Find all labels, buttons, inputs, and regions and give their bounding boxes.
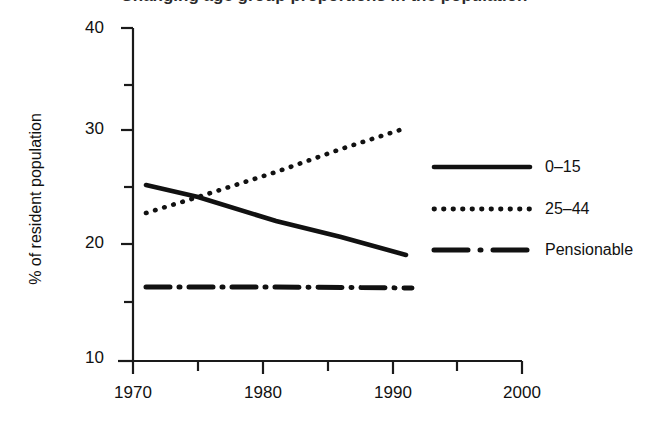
series-line-0-15 <box>146 185 406 255</box>
legend-swatches <box>434 167 530 250</box>
y-axis-ticks <box>118 28 133 361</box>
series-line-25-44 <box>146 128 406 213</box>
legend-label-25-44: 25–44 <box>545 200 590 218</box>
chart-figure: Changing age group proportions in the po… <box>0 0 648 438</box>
x-axis-ticks <box>133 361 522 374</box>
legend-label-0-15: 0–15 <box>545 158 581 176</box>
plot-canvas <box>0 0 648 438</box>
series-line-pensionable <box>146 287 412 288</box>
legend-label-pensionable: Pensionable <box>545 241 633 259</box>
